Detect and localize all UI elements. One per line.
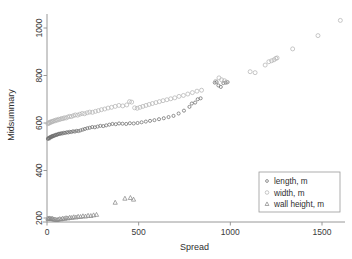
data-point-marker — [85, 111, 89, 115]
legend-item-2[interactable]: wall height, m — [265, 200, 324, 209]
data-point-marker — [253, 71, 257, 75]
x-tick-label: 1000 — [221, 227, 240, 237]
data-point-marker — [173, 96, 177, 100]
data-point-marker — [162, 117, 165, 120]
data-point-marker — [165, 98, 169, 102]
legend: length, mwidth, mwall height, m — [259, 172, 340, 212]
legend-item-label: width, m — [273, 189, 305, 198]
x-tick-label: 0 — [45, 227, 50, 237]
data-point-marker — [188, 105, 191, 108]
y-tick-label: 200 — [34, 211, 44, 225]
data-point-marker — [136, 121, 139, 124]
data-point-marker — [132, 122, 135, 125]
data-point-marker — [161, 99, 165, 103]
data-point-marker — [190, 91, 194, 95]
scatter-plot: 2004006008001000050010001500MidsummarySp… — [0, 0, 352, 259]
data-point-marker — [105, 124, 108, 127]
y-tick-label: 1000 — [34, 18, 44, 37]
y-axis-title: Midsummary — [6, 89, 16, 141]
legend-item-label: length, m — [274, 177, 308, 186]
data-point-marker — [182, 109, 185, 112]
y-tick-label: 600 — [34, 116, 44, 130]
data-point-marker — [121, 122, 124, 125]
data-point-marker — [195, 89, 199, 93]
data-point-marker — [194, 101, 197, 104]
data-point-marker — [123, 196, 127, 200]
data-point-marker — [114, 123, 117, 126]
data-point-marker — [111, 122, 114, 125]
data-point-marker — [83, 112, 87, 116]
data-point-marker — [118, 122, 121, 125]
data-point-marker — [172, 114, 175, 117]
y-tick-label: 800 — [34, 68, 44, 82]
data-point-marker — [140, 121, 143, 124]
x-axis-title: Spread — [180, 242, 209, 252]
y-tick-label: 400 — [34, 163, 44, 177]
x-tick-label: 1500 — [313, 227, 332, 237]
data-point-marker — [94, 212, 98, 216]
data-point-marker — [177, 94, 181, 98]
data-point-marker — [153, 119, 156, 122]
data-point-marker — [144, 120, 147, 123]
data-point-marker — [199, 97, 202, 100]
data-point-marker — [148, 119, 151, 122]
data-point-marker — [219, 85, 222, 88]
data-point-marker — [125, 122, 128, 125]
data-point-marker — [113, 200, 117, 204]
legend-item-label: wall height, m — [273, 200, 324, 209]
data-point-marker — [248, 70, 252, 74]
data-point-marker — [291, 47, 295, 51]
data-point-marker — [177, 112, 180, 115]
data-point-marker — [128, 196, 132, 200]
series-wall-height-m — [46, 196, 136, 222]
data-point-marker — [338, 18, 342, 22]
data-point-marker — [131, 197, 135, 201]
data-point-marker — [263, 63, 267, 67]
data-point-marker — [121, 104, 125, 108]
chart-figure: 2004006008001000050010001500MidsummarySp… — [0, 0, 352, 259]
data-point-marker — [128, 122, 131, 125]
x-tick-label: 500 — [132, 227, 146, 237]
data-point-marker — [181, 93, 185, 97]
data-point-marker — [186, 92, 190, 96]
data-point-marker — [108, 123, 111, 126]
data-point-marker — [190, 102, 193, 105]
data-point-marker — [316, 34, 320, 38]
data-point-marker — [157, 118, 160, 121]
data-point-marker — [117, 103, 121, 107]
data-point-marker — [200, 88, 204, 92]
data-point-marker — [169, 97, 173, 101]
series-width-m — [46, 18, 342, 125]
data-point-marker — [167, 116, 170, 119]
